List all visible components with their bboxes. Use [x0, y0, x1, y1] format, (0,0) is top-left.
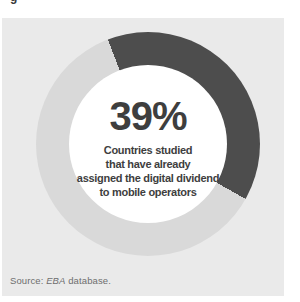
chart-card: 39% Countries studied that have already …	[2, 18, 284, 296]
source-suffix: database.	[66, 275, 111, 286]
caption-line-1: Countries studied	[77, 143, 219, 157]
donut-hole: 39% Countries studied that have already …	[69, 65, 227, 223]
source-emphasis: EBA	[46, 275, 65, 286]
caption-line-3: assigned the digital dividend	[77, 171, 219, 185]
caption-line-2: that have already	[77, 157, 219, 171]
donut-chart: 39% Countries studied that have already …	[36, 32, 260, 256]
figure-page: g 39% Countries studied that have alread…	[0, 0, 300, 302]
caption-line-4: to mobile operators	[77, 185, 219, 199]
cropped-figure-label-fragment: g	[10, 0, 20, 4]
center-caption: Countries studied that have already assi…	[77, 143, 219, 199]
source-note: Source: EBA database.	[10, 275, 111, 286]
center-value: 39%	[109, 96, 186, 136]
source-prefix: Source:	[10, 275, 46, 286]
figure-label-glyph: g	[10, 0, 20, 4]
